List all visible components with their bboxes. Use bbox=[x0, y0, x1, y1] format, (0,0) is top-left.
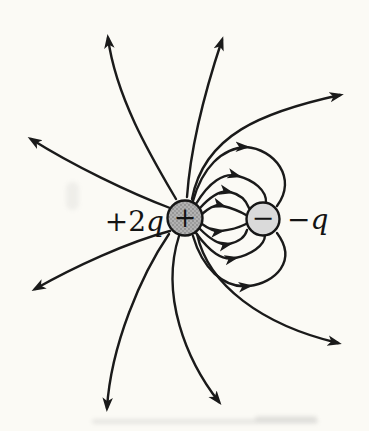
charge-positive: + bbox=[168, 201, 203, 236]
charge-negative: − bbox=[247, 202, 280, 236]
figure-container: + − +2q −q bbox=[0, 0, 369, 431]
minus-icon: − bbox=[252, 202, 275, 233]
plus-icon: + bbox=[174, 202, 197, 233]
label-negative-charge: −q bbox=[287, 203, 328, 236]
field-line-sweep-southeast bbox=[197, 234, 338, 343]
field-line-direct-3 bbox=[202, 224, 246, 231]
field-line-direct-2 bbox=[202, 205, 246, 215]
label-positive-charge: +2q bbox=[105, 205, 164, 238]
field-line-loop-top-inner bbox=[196, 175, 266, 204]
field-line-loop-bottom-inner bbox=[196, 233, 265, 259]
field-line-down-southwest bbox=[107, 234, 169, 408]
electric-field-diagram: + − +2q −q bbox=[0, 0, 369, 431]
field-line-up bbox=[108, 38, 176, 199]
label-positive-number: +2 bbox=[105, 205, 146, 238]
label-positive-variable: q bbox=[146, 205, 164, 238]
field-line-down-left bbox=[35, 231, 170, 289]
label-negative-sign: − bbox=[287, 203, 310, 236]
label-negative-variable: q bbox=[310, 203, 328, 236]
field-line-down bbox=[173, 236, 219, 402]
